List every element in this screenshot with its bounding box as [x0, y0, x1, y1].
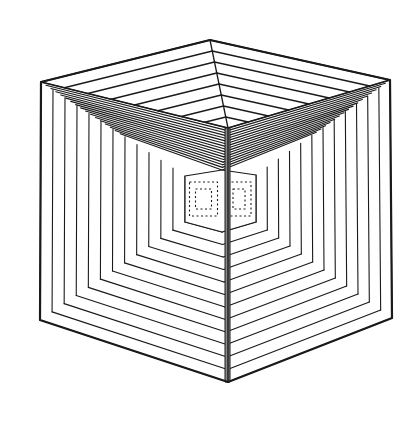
hatch-line — [88, 113, 89, 287]
hatch-line — [135, 84, 220, 105]
hatch-line — [181, 106, 223, 117]
hatch-line — [301, 143, 302, 254]
hatch-line — [52, 90, 53, 312]
hatch-line — [113, 129, 114, 271]
hatch-line — [125, 263, 225, 295]
hatch-line — [357, 104, 359, 294]
bottom-faces-slanted-lines — [40, 222, 392, 382]
hatch-line — [149, 247, 224, 270]
hatch-line — [100, 121, 101, 279]
hatch-line — [161, 238, 223, 257]
hatch-line — [225, 262, 313, 295]
hatch-line — [76, 106, 77, 296]
inner-square-dotted — [185, 170, 256, 232]
hatch-line — [224, 106, 269, 116]
hatch-line — [219, 84, 309, 104]
hatch-line — [224, 254, 301, 282]
hatch-line — [223, 238, 279, 257]
hatch-line — [227, 294, 359, 345]
hatch-line — [223, 126, 326, 165]
left-face-vertical-lines — [40, 82, 185, 320]
hatch-line — [334, 120, 335, 278]
hatch-line — [345, 112, 346, 286]
hatch-line — [212, 51, 370, 86]
line-art-canvas — [0, 0, 420, 426]
hatch-line — [323, 128, 324, 271]
hatch-line — [312, 135, 313, 262]
hatch-line — [290, 151, 291, 246]
hatch-line — [226, 286, 347, 332]
hatch-line — [224, 246, 291, 270]
hatch-line — [228, 310, 381, 370]
hatch-line — [100, 279, 225, 319]
hatch-line — [76, 296, 226, 345]
hatch-line — [210, 40, 228, 128]
hatch-line — [64, 51, 212, 88]
center-spine — [225, 128, 230, 382]
hatch-line — [205, 117, 226, 122]
hatch-line — [379, 88, 381, 310]
cube-illusion-figure — [0, 0, 420, 426]
hatch-line — [52, 312, 227, 370]
hatch-line — [226, 278, 336, 320]
hatch-line — [88, 287, 226, 332]
hatch-line — [64, 98, 65, 304]
hatch-line — [368, 96, 370, 302]
hatch-line — [137, 255, 224, 282]
hatch-line — [217, 73, 330, 98]
hatch-line — [111, 73, 217, 99]
hatch-line — [173, 230, 223, 244]
hatch-line — [226, 117, 249, 122]
